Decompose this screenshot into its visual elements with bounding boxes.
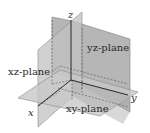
coordinate-planes-diagram: z y x yz-plane xz-plane xy-plane	[0, 0, 150, 133]
x-axis-label: x	[28, 107, 34, 118]
yz-plane-label: yz-plane	[86, 42, 129, 53]
z-axis-label: z	[67, 9, 74, 20]
xy-plane-label: xy-plane	[66, 103, 109, 114]
xz-plane-label: xz-plane	[8, 66, 50, 77]
y-axis-label: y	[130, 92, 137, 103]
